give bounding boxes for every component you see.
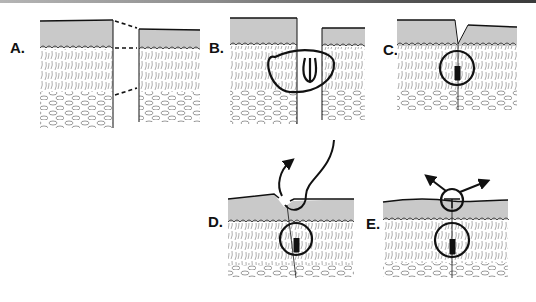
knot-icon <box>450 239 455 254</box>
skin-block <box>228 194 354 278</box>
panel-label-d: D. <box>208 213 223 230</box>
skin-block-right <box>322 28 365 120</box>
skin-block <box>397 20 517 110</box>
panel-d: D. <box>208 140 354 278</box>
suture-diagram: A. B. <box>0 0 536 302</box>
panel-label-e: E. <box>366 215 380 232</box>
panel-b: B. <box>209 18 365 124</box>
skin-block-left <box>230 18 297 124</box>
panel-label-c: C. <box>383 41 398 58</box>
panel-c: C. <box>383 20 517 110</box>
knot-icon <box>294 238 299 252</box>
panel-label-b: B. <box>209 39 224 56</box>
skin-block <box>383 199 509 278</box>
panel-label-a: A. <box>10 39 25 56</box>
skin-block-right <box>139 29 200 122</box>
knot-icon <box>455 66 460 80</box>
panel-a: A. <box>10 20 200 128</box>
layer-connector-lines <box>115 21 137 95</box>
skin-block-left <box>40 20 113 128</box>
panel-e: E. <box>366 178 509 278</box>
